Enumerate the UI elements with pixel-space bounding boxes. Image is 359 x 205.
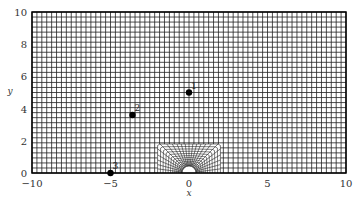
- y-axis-ticks: 0246810: [14, 7, 27, 179]
- y-tick-label: 10: [14, 7, 27, 18]
- x-tick-label: 5: [264, 178, 270, 189]
- data-point-label: 1: [191, 81, 197, 91]
- data-point-label: 3: [113, 161, 119, 171]
- mesh-plot: −10−50510 0246810 x y 123: [0, 0, 359, 205]
- y-axis-label: y: [6, 86, 13, 96]
- y-tick-label: 4: [21, 104, 27, 115]
- y-tick-label: 0: [21, 168, 27, 179]
- refined-mesh-region: [158, 144, 221, 173]
- y-tick-label: 6: [21, 71, 27, 82]
- data-point-label: 2: [134, 103, 140, 113]
- y-tick-label: 2: [21, 136, 27, 147]
- x-tick-label: −5: [103, 178, 118, 189]
- y-tick-label: 8: [21, 39, 27, 50]
- x-tick-label: −10: [21, 178, 42, 189]
- x-axis-label: x: [186, 188, 191, 198]
- x-tick-label: 10: [340, 178, 353, 189]
